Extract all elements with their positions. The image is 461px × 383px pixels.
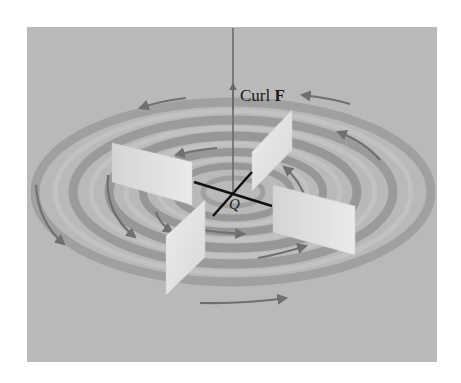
point-q-label: Q — [229, 196, 240, 213]
arrow-icon — [302, 95, 350, 104]
curl-diagram — [0, 0, 461, 383]
arrow-icon — [200, 298, 286, 303]
curl-f-label: Curl F — [240, 86, 285, 106]
curl-label-text: Curl — [240, 86, 270, 105]
curl-label-vector: F — [274, 86, 284, 105]
